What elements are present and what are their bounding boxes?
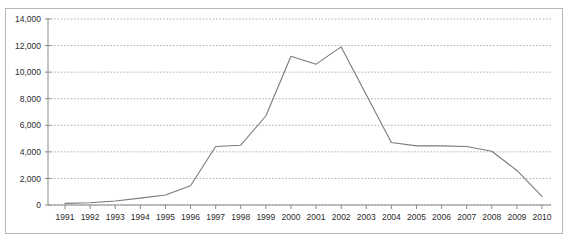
y-tick-label: 6,000 bbox=[20, 120, 42, 130]
x-axis-group: 1991199219931994199519961997199819992000… bbox=[48, 205, 552, 222]
x-tick-label: 2007 bbox=[457, 212, 476, 222]
x-tick-label: 1999 bbox=[256, 212, 275, 222]
x-tick-label: 2004 bbox=[382, 212, 401, 222]
y-tick-label: 10,000 bbox=[15, 67, 41, 77]
x-tick-label: 2003 bbox=[357, 212, 376, 222]
x-tick-label: 2000 bbox=[281, 212, 300, 222]
x-tick-label: 1991 bbox=[56, 212, 75, 222]
x-tick-label: 1998 bbox=[231, 212, 250, 222]
chart-caption bbox=[0, 0, 569, 7]
x-tick-label: 2008 bbox=[482, 212, 501, 222]
y-tick-label: 0 bbox=[36, 200, 41, 210]
x-tick-label: 1996 bbox=[181, 212, 200, 222]
x-tick-label: 1997 bbox=[206, 212, 225, 222]
x-tick-label: 1995 bbox=[156, 212, 175, 222]
x-tick-label: 2009 bbox=[507, 212, 526, 222]
x-tick-label: 1994 bbox=[131, 212, 150, 222]
x-tick-label: 2002 bbox=[332, 212, 351, 222]
chart-figure: 02,0004,0006,0008,00010,00012,00014,000 … bbox=[0, 0, 569, 241]
y-tick-label: 4,000 bbox=[20, 147, 42, 157]
x-tick-label: 2010 bbox=[533, 212, 552, 222]
x-tick-label: 2001 bbox=[307, 212, 326, 222]
chart-frame: 02,0004,0006,0008,00010,00012,00014,000 … bbox=[5, 8, 563, 234]
y-tick-label: 12,000 bbox=[15, 41, 41, 51]
y-tick-label: 14,000 bbox=[15, 14, 41, 24]
line-chart-plot: 02,0004,0006,0008,00010,00012,00014,000 … bbox=[6, 9, 562, 233]
x-tick-label: 1993 bbox=[106, 212, 125, 222]
x-tick-label: 2005 bbox=[407, 212, 426, 222]
y-axis-group: 02,0004,0006,0008,00010,00012,00014,000 bbox=[15, 14, 51, 210]
y-tick-label: 8,000 bbox=[20, 94, 42, 104]
x-tick-label: 2006 bbox=[432, 212, 451, 222]
y-tick-label: 2,000 bbox=[20, 174, 42, 184]
x-tick-label: 1992 bbox=[81, 212, 100, 222]
gridlines-group bbox=[51, 19, 551, 205]
